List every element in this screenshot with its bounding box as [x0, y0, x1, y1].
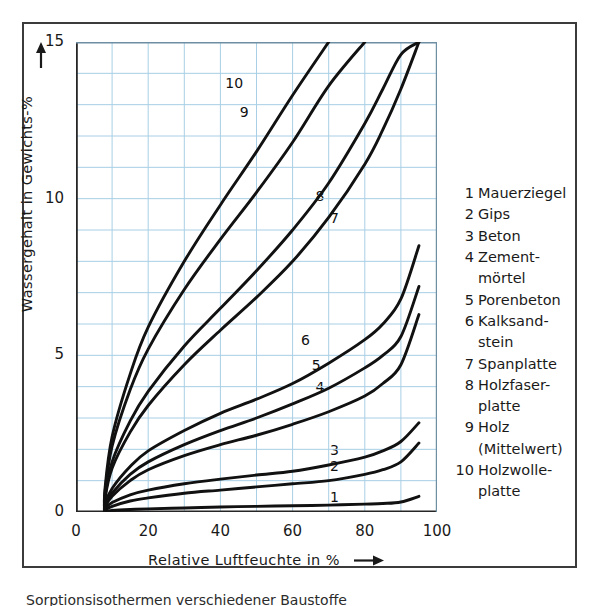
legend-label: Beton: [478, 226, 575, 247]
figure-caption: Sorptionsisothermen verschiedener Bausto…: [26, 592, 347, 606]
right-arrow-icon: [354, 553, 384, 569]
legend-item-8: 8Holzfaser-: [455, 375, 575, 396]
legend-label-continued: platte: [455, 396, 575, 417]
y-tick-5: 5: [26, 345, 64, 363]
legend-label: Porenbeton: [478, 290, 575, 311]
y-tick-10: 10: [26, 189, 64, 207]
x-tick-100: 100: [412, 522, 462, 540]
legend-item-3: 3Beton: [455, 226, 575, 247]
legend-label: Spanplatte: [478, 354, 575, 375]
x-tick-60: 60: [268, 522, 318, 540]
legend-label: Holz: [478, 417, 575, 438]
legend-label: Gips: [478, 204, 575, 225]
legend-item-7: 7Spanplatte: [455, 354, 575, 375]
plot-canvas: [76, 42, 437, 512]
x-tick-80: 80: [340, 522, 390, 540]
legend-label: Holzfaser-: [478, 375, 575, 396]
legend-label-continued: platte: [455, 481, 575, 502]
legend-label: Holzwolle-: [478, 460, 575, 481]
x-axis-title: Relative Luftfeuchte in %: [76, 552, 456, 569]
legend-number: 7: [455, 354, 474, 375]
legend-label-continued: (Mittelwert): [455, 439, 575, 460]
legend-item-9: 9Holz: [455, 417, 575, 438]
legend-item-6: 6Kalksand-: [455, 311, 575, 332]
y-tick-0: 0: [26, 502, 64, 520]
y-tick-15: 15: [26, 32, 64, 50]
legend-label: Kalksand-: [478, 311, 575, 332]
legend-number: 5: [455, 290, 474, 311]
grid-lines: [76, 42, 437, 512]
x-axis-title-text: Relative Luftfeuchte in %: [148, 552, 340, 568]
curve-10: [104, 42, 328, 512]
legend-number: 10: [455, 460, 474, 481]
legend-item-5: 5Porenbeton: [455, 290, 575, 311]
x-tick-0: 0: [51, 522, 101, 540]
legend-label-continued: stein: [455, 332, 575, 353]
legend-number: 8: [455, 375, 474, 396]
x-tick-20: 20: [123, 522, 173, 540]
plot-area: [76, 42, 437, 512]
legend-number: 1: [455, 183, 474, 204]
x-tick-40: 40: [195, 522, 245, 540]
legend-number: 2: [455, 204, 474, 225]
legend-number: 6: [455, 311, 474, 332]
legend-number: 4: [455, 247, 474, 268]
legend-number: 3: [455, 226, 474, 247]
legend-number: 9: [455, 417, 474, 438]
legend-label: Mauerziegel: [478, 183, 575, 204]
legend: 1Mauerziegel2Gips3Beton4Zement-mörtel5Po…: [455, 183, 575, 503]
legend-item-1: 1Mauerziegel: [455, 183, 575, 204]
curve-8: [104, 42, 419, 512]
figure-sorption-isotherms: Wassergehalt in Gewichts-% 051015 020406…: [0, 0, 600, 606]
legend-label: Zement-: [478, 247, 575, 268]
legend-label-continued: mörtel: [455, 268, 575, 289]
curves: [104, 42, 419, 512]
curve-2: [104, 443, 419, 512]
legend-item-10: 10Holzwolle-: [455, 460, 575, 481]
legend-item-2: 2Gips: [455, 204, 575, 225]
legend-item-4: 4Zement-: [455, 247, 575, 268]
